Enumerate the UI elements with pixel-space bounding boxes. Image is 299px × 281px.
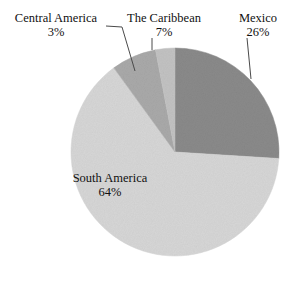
slice-label-caribbean-percent: 7% (112, 26, 216, 40)
pie-slices (71, 48, 279, 256)
slice-label-south-america-percent: 64% (52, 186, 168, 200)
slice-label-mexico-name: Mexico (222, 12, 294, 26)
pie-chart-svg (0, 0, 299, 281)
pie-chart-figure: Central America 3% The Caribbean 7% Mexi… (0, 0, 299, 281)
slice-label-central-america-name: Central America (4, 12, 108, 26)
slice-label-south-america-name: South America (52, 172, 168, 186)
leader-line-mexico (247, 38, 251, 79)
pie-slice-mexico[interactable] (175, 48, 279, 159)
slice-label-central-america: Central America 3% (4, 12, 108, 39)
slice-label-mexico: Mexico 26% (222, 12, 294, 39)
slice-label-central-america-percent: 3% (4, 26, 108, 40)
slice-label-caribbean-name: The Caribbean (112, 12, 216, 26)
slice-label-mexico-percent: 26% (222, 26, 294, 40)
slice-label-caribbean: The Caribbean 7% (112, 12, 216, 39)
slice-label-south-america: South America 64% (52, 172, 168, 199)
